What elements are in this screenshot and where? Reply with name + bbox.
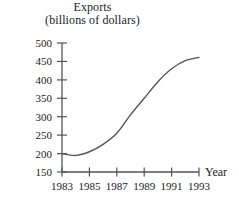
x-tick-label-1987: 1987: [106, 180, 129, 192]
x-tick-label-1991: 1991: [161, 180, 183, 192]
y-tick-label-500: 500: [36, 37, 53, 49]
chart-plot-area: 500 450 400 350 300 250 200 150 1983 198…: [0, 0, 239, 199]
y-tick-label-250: 250: [36, 129, 53, 141]
x-axis-title: Year: [205, 165, 227, 179]
exports-line-series: [62, 57, 199, 155]
y-tick-label-150: 150: [36, 166, 53, 178]
y-tick-label-450: 450: [36, 55, 53, 67]
x-tick-label-1989: 1989: [133, 180, 156, 192]
y-tick-label-300: 300: [36, 111, 53, 123]
y-tick-label-350: 350: [36, 92, 53, 104]
chart-figure: Exports (billions of dollars) 500 450 40…: [0, 0, 239, 199]
y-tick-label-400: 400: [36, 74, 53, 86]
x-axis-group: 1983 1985 1987 1989 1991 1993 Year: [51, 165, 227, 192]
y-axis-group: 500 450 400 350 300 250 200 150: [36, 37, 68, 178]
x-tick-label-1985: 1985: [78, 180, 101, 192]
y-tick-label-200: 200: [36, 148, 53, 160]
x-tick-label-1993: 1993: [188, 180, 211, 192]
x-tick-label-1983: 1983: [51, 180, 74, 192]
